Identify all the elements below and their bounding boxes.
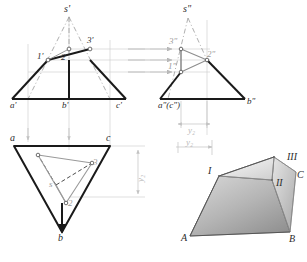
top-view-b-label: b <box>58 233 63 243</box>
side-view-dimension <box>178 101 210 128</box>
front-view-point3-label: 3' <box>87 36 93 45</box>
top-view-point2-label: 2 <box>68 199 73 208</box>
pictorial-dimension <box>176 140 212 155</box>
front-view-b-label: b' <box>62 101 68 110</box>
top-view-point3-label: 3 <box>93 158 98 167</box>
side-view-point-markers <box>179 47 209 74</box>
pictorial-dimension-label: y₂ <box>186 138 193 147</box>
side-view-dimension-label: y₂ <box>188 126 195 135</box>
side-view-point1-label: 1" <box>168 62 176 71</box>
pictorial-point1-label: I <box>208 166 211 176</box>
top-view-construction-arrows <box>28 128 69 140</box>
top-view-section-lines <box>38 155 92 203</box>
top-view-apex-label: s <box>49 180 53 189</box>
side-view-apex-edges <box>168 18 207 99</box>
front-view-a-label: a' <box>10 101 16 110</box>
top-view-c-label: c <box>106 133 110 143</box>
pictorial-solid <box>190 157 296 236</box>
front-view-construction-lines <box>28 16 145 122</box>
side-view-section-lines <box>181 49 207 72</box>
side-view-ac-label: a"(c") <box>158 101 180 110</box>
front-view-c-label: c' <box>116 101 122 110</box>
front-view-point2-label: 2' <box>61 53 67 62</box>
top-view-a-label: a <box>10 133 15 143</box>
projection-arrows <box>128 49 172 72</box>
pictorial-a-label: A <box>181 233 187 243</box>
front-view-point1-label: 1' <box>37 52 43 61</box>
figure-canvas: s' 1' 2' 3' a' b' c' s" 3" 1" 2" a"(c") … <box>0 0 307 262</box>
pictorial-c-label: C <box>297 170 304 180</box>
side-view-apex-label: s" <box>183 4 191 14</box>
pictorial-b-label: B <box>289 234 295 244</box>
front-view-apex-label: s' <box>64 4 70 14</box>
pictorial-point2-label: II <box>276 178 283 188</box>
drawing-layer <box>0 0 307 262</box>
side-view-point3-label: 3" <box>169 37 177 46</box>
side-view-point2-label: 2" <box>207 50 215 59</box>
side-view-b-label: b" <box>247 97 255 106</box>
pictorial-point3-label: III <box>287 152 297 162</box>
top-view-dimension-label: y₂ <box>136 175 145 182</box>
top-view-construction-lines <box>28 120 145 197</box>
side-view-construction-lines <box>150 20 210 135</box>
